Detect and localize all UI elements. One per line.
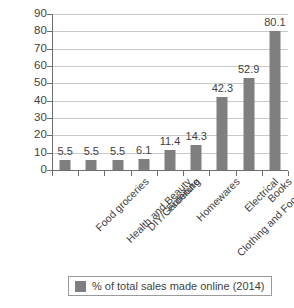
bar-group: 52.9: [236, 0, 262, 170]
bar: [60, 160, 71, 170]
y-axis-tick-label: 60: [0, 60, 47, 72]
bar: [138, 159, 149, 170]
y-axis-tick-labels: 9080706050403020100: [0, 0, 47, 180]
bar-group: 11.4: [157, 0, 183, 170]
bar: [191, 145, 202, 170]
y-axis-tick-label: 70: [0, 43, 47, 55]
y-axis-tick-label: 0: [0, 164, 47, 176]
bar-value-label: 6.1: [136, 145, 151, 156]
bar-group: 42.3: [209, 0, 235, 170]
bar: [112, 160, 123, 170]
y-axis-tickmark: [47, 101, 52, 102]
bar-value-label: 11.4: [160, 136, 181, 147]
bar: [269, 31, 280, 170]
bar: [86, 160, 97, 170]
bar: [217, 97, 228, 170]
y-axis-tickmark: [47, 135, 52, 136]
y-axis-tick-label: 50: [0, 77, 47, 89]
y-axis-tickmark: [47, 83, 52, 84]
bar-value-label: 80.1: [264, 17, 285, 28]
y-axis-tick-label: 90: [0, 8, 47, 20]
bar-value-label: 42.3: [212, 83, 233, 94]
bar-group: 5.5: [52, 0, 78, 170]
y-axis-tickmark: [47, 31, 52, 32]
bar-value-label: 5.5: [84, 146, 99, 157]
bar-group: 14.3: [183, 0, 209, 170]
y-axis-tick-label: 80: [0, 25, 47, 37]
bar: [164, 150, 175, 170]
legend-label: % of total sales made online (2014): [92, 280, 264, 292]
bar-value-label: 52.9: [238, 64, 259, 75]
bar-group: 80.1: [262, 0, 288, 170]
legend-swatch-icon: [75, 281, 86, 292]
bar-group: 5.5: [78, 0, 104, 170]
y-axis-tickmark: [47, 66, 52, 67]
x-axis-category-labels: Food groceriesHealth and BeautyDIY/Garde…: [0, 176, 294, 266]
bar-group: 5.5: [104, 0, 130, 170]
y-axis-tickmark: [47, 14, 52, 15]
y-axis-tickmark: [47, 49, 52, 50]
bar-value-label: 5.5: [110, 146, 125, 157]
chart-legend: % of total sales made online (2014): [68, 276, 272, 296]
bar-chart: 9080706050403020100 5.55.55.56.111.414.3…: [0, 0, 294, 308]
bar-value-label: 14.3: [186, 131, 207, 142]
y-axis-tick-label: 20: [0, 129, 47, 141]
bar: [243, 78, 254, 170]
bar-value-label: 5.5: [57, 146, 72, 157]
plot-area: 9080706050403020100 5.55.55.56.111.414.3…: [0, 0, 294, 180]
y-axis-tick-label: 30: [0, 112, 47, 124]
bars-layer: 5.55.55.56.111.414.342.352.980.1: [52, 0, 288, 171]
y-axis-tickmark: [47, 118, 52, 119]
y-axis-tick-label: 40: [0, 95, 47, 107]
y-axis-tickmark: [47, 153, 52, 154]
y-axis-tick-label: 10: [0, 147, 47, 159]
bar-group: 6.1: [131, 0, 157, 170]
